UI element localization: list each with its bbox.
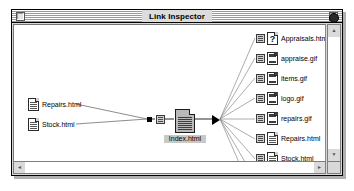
node-label: logo.gif [281,94,304,103]
scroll-left-arrow-icon[interactable]: ◄ [14,162,25,173]
node-expander-button[interactable] [256,74,265,83]
node-expander-button[interactable] [256,34,265,43]
gif-image-icon [267,72,278,85]
outgoing-node[interactable]: logo.gif [256,92,304,105]
incoming-junction-marker [147,117,152,122]
window-resize-grow-box[interactable] [327,161,341,174]
center-node-label: Index.html [164,135,206,143]
gif-image-icon [267,112,278,125]
unknown-file-icon: ? [267,32,278,45]
scroll-right-arrow-icon[interactable]: ► [314,162,325,173]
node-label: Appraisals.html [281,34,326,43]
vertical-scroll-knob[interactable] [329,13,339,23]
node-label: items.gif [281,74,307,83]
node-expander-button[interactable] [256,134,265,143]
window-content: Repairs.html Stock.html Index.html [12,23,342,175]
window-titlebar[interactable]: Link Inspector [12,10,342,23]
link-inspector-window: Link Inspector [11,9,343,176]
node-label: Repairs.html [42,100,81,109]
gif-image-icon [267,92,278,105]
center-node[interactable]: Index.html [175,109,195,133]
center-node-expander[interactable] [156,115,165,124]
incoming-node[interactable]: Repairs.html [28,98,81,111]
close-box-icon[interactable] [16,12,25,21]
screen: Link Inspector [0,0,354,191]
scroll-down-arrow-icon[interactable]: ▼ [328,149,340,161]
link-graph-canvas[interactable]: Repairs.html Stock.html Index.html [13,24,326,162]
node-expander-button[interactable] [256,94,265,103]
html-document-icon [267,132,278,145]
outgoing-node[interactable]: items.gif [256,72,307,85]
node-label: repairs.gif [281,114,312,123]
outgoing-node[interactable]: repairs.gif [256,112,312,125]
node-expander-button[interactable] [256,114,265,123]
node-label: Stock.html [42,120,75,129]
node-label: Repairs.html [281,134,320,143]
outgoing-node[interactable]: ? Appraisals.html [256,32,326,45]
horizontal-scrollbar[interactable]: ◄ ► [13,161,326,174]
window-title: Link Inspector [142,10,212,23]
outgoing-node[interactable]: appraise.gif [256,52,317,65]
node-expander-button[interactable] [256,54,265,63]
html-document-icon [175,109,195,133]
outgoing-arrowhead [212,115,220,125]
incoming-node[interactable]: Stock.html [28,118,75,131]
gif-image-icon [267,52,278,65]
node-label: appraise.gif [281,54,317,63]
outgoing-node[interactable]: Repairs.html [256,132,320,145]
html-document-icon [28,98,39,111]
scroll-up-arrow-icon[interactable]: ▲ [328,25,340,37]
html-document-icon [28,118,39,131]
vertical-scrollbar[interactable]: ▲ ▼ [327,24,341,162]
